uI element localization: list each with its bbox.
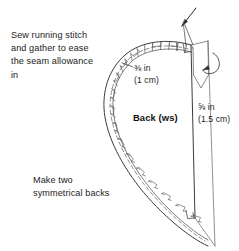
- quantity-line-2: symmetrical backs: [33, 188, 109, 198]
- piece-label: Back (ws): [133, 112, 178, 123]
- quantity-note: Make twosymmetrical backs: [33, 174, 109, 200]
- measurement-label-straight: ⅝ in(1.5 cm): [198, 101, 230, 126]
- diagram-canvas: Sew running stitchand gather to easethe …: [0, 0, 239, 251]
- quantity-line-1: Make two: [33, 175, 73, 185]
- instruction-line-4: in: [11, 70, 18, 80]
- instruction-line-1: Sew running stitch: [11, 30, 87, 40]
- instruction-line-2: and gather to ease: [11, 43, 89, 53]
- folded-seam-flap: [191, 41, 209, 88]
- measurement-label-curved: ⅜ in(1 cm): [134, 62, 159, 87]
- measurement-metric-straight: (1.5 cm): [198, 114, 230, 124]
- right-straight-edge: [191, 41, 215, 246]
- needle-pointer-arrow: [182, 8, 196, 46]
- bottom-tab-marks: [186, 210, 195, 219]
- measurement-imperial-straight: ⅝ in: [198, 102, 215, 112]
- measurement-imperial-curved: ⅜ in: [134, 63, 151, 73]
- roll-fold-arrow: [203, 53, 219, 74]
- instruction-note: Sew running stitchand gather to easethe …: [11, 29, 93, 82]
- instruction-line-3: the seam allowance: [11, 56, 93, 66]
- measurement-metric-curved: (1 cm): [134, 75, 159, 85]
